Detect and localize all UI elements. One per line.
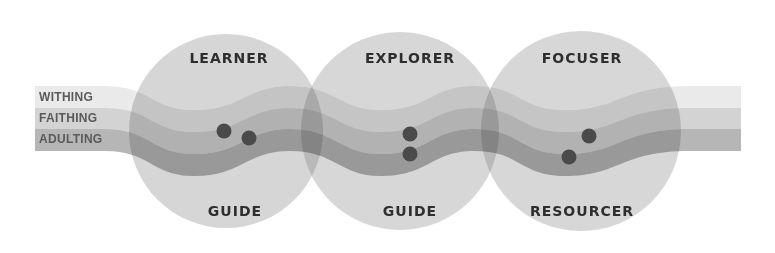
label-explorer: EXPLORER <box>365 50 455 66</box>
label-learner: LEARNER <box>189 50 268 66</box>
dot <box>562 150 577 165</box>
dot <box>403 147 418 162</box>
dot <box>403 127 418 142</box>
dot <box>582 129 597 144</box>
label-teacher: GUIDE <box>208 203 262 219</box>
stage-labels: WITHING FAITHING ADULTING <box>39 90 103 146</box>
label-focuser: FOCUSER <box>542 50 623 66</box>
dot <box>217 124 232 139</box>
stage-label-withing: WITHING <box>39 90 93 104</box>
stage-label-faithing: FAITHING <box>39 111 97 125</box>
label-guide: GUIDE <box>383 203 437 219</box>
label-resourcer: RESOURCER <box>530 203 634 219</box>
stage-label-adulting: ADULTING <box>39 132 103 146</box>
journey-diagram: WITHING FAITHING ADULTING LEARNER GUIDE … <box>0 0 775 253</box>
dot <box>242 131 257 146</box>
